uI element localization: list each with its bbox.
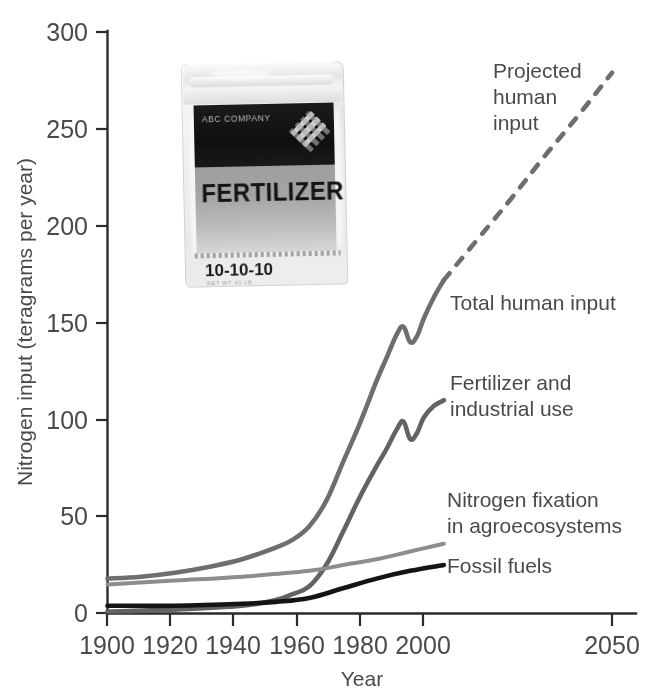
y-tick-label-250: 250 xyxy=(46,115,88,143)
series-annotations: Projected human input Total human input … xyxy=(447,59,622,577)
chart-plot-area: 300 250 200 150 100 50 0 1900 1920 1940 … xyxy=(0,0,654,694)
y-tick-label-0: 0 xyxy=(74,599,88,627)
label-fertilizer-line1: Fertilizer and xyxy=(450,371,571,394)
label-nfix-line2: in agroecosystems xyxy=(447,514,622,537)
nitrogen-input-figure: ABC COMPANY FERTILIZER 10-10-10 NET WT 4… xyxy=(0,0,654,694)
y-axis-ticks xyxy=(96,32,108,613)
y-axis-title: Nitrogen input (teragrams per year) xyxy=(13,158,36,486)
series-fossil-fuels xyxy=(108,565,444,606)
label-fossil-fuels: Fossil fuels xyxy=(447,554,552,577)
x-axis-title: Year xyxy=(341,667,383,690)
y-tick-label-200: 200 xyxy=(46,212,88,240)
label-projected-line1: Projected xyxy=(493,59,582,82)
x-tick-label-1920: 1920 xyxy=(142,631,198,659)
y-tick-label-150: 150 xyxy=(46,309,88,337)
x-tick-label-1900: 1900 xyxy=(79,631,135,659)
label-total-human-input: Total human input xyxy=(450,291,616,314)
x-axis-ticks xyxy=(107,613,612,626)
x-tick-label-1940: 1940 xyxy=(205,631,261,659)
x-tick-label-1960: 1960 xyxy=(269,631,325,659)
x-tick-label-2050: 2050 xyxy=(584,631,640,659)
x-axis-tick-labels: 1900 1920 1940 1960 1980 2000 2050 xyxy=(79,631,640,659)
y-tick-label-100: 100 xyxy=(46,406,88,434)
series-total-human-input xyxy=(108,280,444,579)
label-fertilizer-line2: industrial use xyxy=(450,397,574,420)
label-nfix-line1: Nitrogen fixation xyxy=(447,488,599,511)
y-tick-label-300: 300 xyxy=(46,18,88,46)
y-tick-label-50: 50 xyxy=(60,502,88,530)
label-projected-line3: input xyxy=(493,111,539,134)
x-tick-label-2000: 2000 xyxy=(395,631,451,659)
y-axis-tick-labels: 300 250 200 150 100 50 0 xyxy=(46,18,88,627)
label-projected-line2: human xyxy=(493,85,557,108)
x-tick-label-1980: 1980 xyxy=(332,631,388,659)
